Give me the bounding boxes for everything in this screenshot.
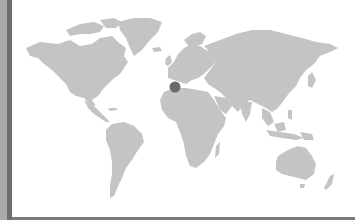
- madagascar: [215, 142, 220, 158]
- new-zealand: [324, 174, 334, 190]
- scandinavia: [184, 32, 206, 48]
- uk: [165, 55, 172, 66]
- caribbean: [108, 108, 118, 111]
- indonesia: [266, 130, 304, 140]
- location-marker[interactable]: [170, 82, 181, 93]
- borneo: [274, 122, 286, 132]
- tasmania: [300, 184, 305, 188]
- north-america: [26, 36, 128, 106]
- philippines: [288, 110, 292, 120]
- central-america: [84, 100, 110, 122]
- australia: [276, 146, 316, 180]
- new-guinea: [300, 132, 314, 140]
- arctic-islands: [66, 22, 104, 36]
- south-america: [106, 122, 144, 198]
- india: [240, 102, 252, 122]
- world-map[interactable]: [12, 0, 355, 217]
- bottom-frame-border: [12, 217, 355, 220]
- left-frame-strip: [0, 0, 7, 220]
- iceland: [152, 47, 162, 52]
- world-map-land: [12, 0, 355, 217]
- japan: [308, 72, 316, 88]
